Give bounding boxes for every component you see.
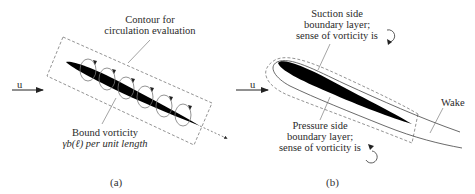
pressure-line1: Pressure side [272,120,368,131]
pressure-side-label: Pressure side boundary layer; sense of v… [272,120,368,153]
suction-side-label: Suction side boundary layer; sense of vo… [289,8,385,41]
bound-vorticity-label: Bound vorticity γb(ℓ) per unit length [62,127,148,149]
suction-leader [318,44,330,70]
suction-line3: sense of vorticity is [289,30,385,41]
pressure-line2: boundary layer; [272,131,368,142]
wake-label: Wake [441,97,465,108]
suction-line1: Suction side [289,8,385,19]
contour-leader-line [128,40,150,63]
bound-label-line2: γb(ℓ) per unit length [62,138,148,149]
wake-leader [430,108,443,133]
pressure-line3: sense of vorticity is [272,142,368,153]
clockwise-vorticity-icon [387,30,395,45]
suction-line2: boundary layer; [289,19,385,30]
flow-label-b: u [250,79,255,90]
bound-label-line1: Bound vorticity [62,127,148,138]
bound-vorticity-leader [102,98,116,124]
airfoil-b [278,61,412,124]
contour-label-line1: Contour for [98,14,202,25]
contour-label: Contour for circulation evaluation [98,14,202,36]
contour-label-line2: circulation evaluation [98,25,202,36]
diagram-canvas [0,0,475,194]
chord-extension-arrow [200,126,226,138]
caption-b: (b) [326,177,339,188]
caption-a: (a) [110,177,122,188]
flow-label-a: u [17,79,22,90]
